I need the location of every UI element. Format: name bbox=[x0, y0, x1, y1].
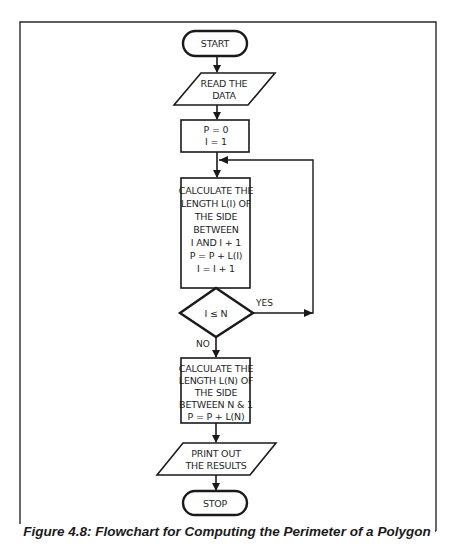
calc-line-1: CALCULATE THE bbox=[179, 185, 254, 196]
stop-terminal: STOP bbox=[183, 491, 247, 515]
read-line-2: DATA bbox=[212, 90, 236, 101]
no-label: NO bbox=[196, 339, 210, 349]
start-label: START bbox=[201, 38, 230, 49]
calc-last-process: CALCULATE THE LENGTH L(N) OF THE SIDE BE… bbox=[179, 358, 254, 423]
read-line-1: READ THE bbox=[201, 78, 248, 89]
calc-line-6: P = P + L(I) bbox=[190, 250, 243, 261]
calc-line-5: I AND I + 1 bbox=[191, 237, 242, 248]
decision-diamond: I ≤ N bbox=[180, 288, 253, 337]
loop-arrowhead-icon bbox=[219, 156, 228, 164]
figure-caption: Figure 4.8: Flowchart for Computing the … bbox=[19, 524, 434, 539]
init-process: P = 0 I = 1 bbox=[181, 120, 249, 152]
calclast-line-5: P = P + L(N) bbox=[188, 411, 245, 422]
figure-caption-container: Figure 4.8: Flowchart for Computing the … bbox=[0, 522, 454, 540]
calclast-line-1: CALCULATE THE bbox=[179, 363, 254, 374]
start-terminal: START bbox=[183, 31, 247, 56]
calc-line-7: I = I + 1 bbox=[197, 263, 235, 274]
yes-arrowhead-icon bbox=[304, 309, 313, 317]
decision-condition: I ≤ N bbox=[205, 308, 228, 319]
calc-line-3: THE SIDE bbox=[194, 211, 238, 222]
print-line-2: THE RESULTS bbox=[184, 460, 246, 471]
init-line-1: P = 0 bbox=[204, 124, 229, 135]
calc-line-2: LENGTH L(I) OF bbox=[181, 198, 251, 209]
calc-loop-process: CALCULATE THE LENGTH L(I) OF THE SIDE BE… bbox=[179, 178, 254, 288]
flowchart-canvas: START READ THE DATA P = 0 I = 1 CALCULAT… bbox=[0, 0, 454, 549]
stop-label: STOP bbox=[203, 498, 228, 509]
print-results-output: PRINT OUT THE RESULTS bbox=[157, 443, 276, 475]
calc-line-4: BETWEEN bbox=[193, 224, 239, 235]
calclast-line-3: THE SIDE bbox=[194, 387, 238, 398]
yes-label: YES bbox=[255, 298, 273, 308]
calclast-line-4: BETWEEN N & 1 bbox=[179, 399, 253, 410]
read-data-input: READ THE DATA bbox=[174, 73, 275, 105]
calclast-line-2: LENGTH L(N) OF bbox=[179, 375, 253, 386]
init-line-2: I = 1 bbox=[205, 136, 227, 147]
print-line-1: PRINT OUT bbox=[191, 448, 241, 459]
